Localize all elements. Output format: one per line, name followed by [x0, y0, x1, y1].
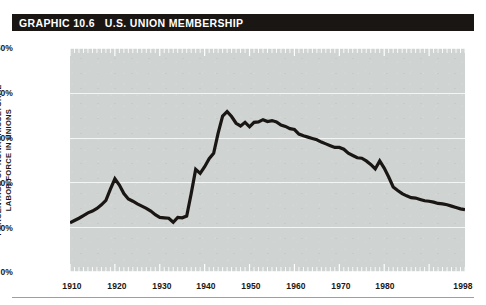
x-tick-label-1980: 1980 — [365, 281, 405, 291]
x-tick-label-1970: 1970 — [321, 281, 361, 291]
y-tick-label-20: 20% — [0, 178, 13, 188]
plot-area — [70, 48, 465, 272]
x-tick-label-1910: 1910 — [52, 281, 92, 291]
union-membership-line-chart — [70, 48, 465, 272]
x-tick-label-1920: 1920 — [97, 281, 137, 291]
x-tick-label-1950: 1950 — [231, 281, 271, 291]
series-line-union-membership — [70, 112, 465, 223]
x-tick-label-1930: 1930 — [142, 281, 182, 291]
x-tick-label-1940: 1940 — [186, 281, 226, 291]
y-tick-label-0: 0% — [0, 267, 13, 277]
y-tick-label-30: 30% — [0, 133, 13, 143]
x-tick-label-1998: 1998 — [443, 281, 483, 291]
graphic-title-text: GRAPHIC 10.6 U.S. UNION MEMBERSHIP — [12, 17, 243, 29]
graphic-figure: GRAPHIC 10.6 U.S. UNION MEMBERSHIP PERCE… — [0, 0, 486, 305]
footer-rule — [12, 297, 474, 298]
y-axis-label-line-2: LABOR FORCE IN UNIONS — [4, 48, 14, 272]
x-tick-label-1960: 1960 — [276, 281, 316, 291]
y-tick-label-10: 10% — [0, 223, 13, 233]
y-tick-label-40: 40% — [0, 88, 13, 98]
y-axis-label: PERCENTAGE OF NONAGRICULTURAL LABOR FORC… — [0, 0, 20, 48]
graphic-title-banner: GRAPHIC 10.6 U.S. UNION MEMBERSHIP — [12, 14, 474, 31]
y-tick-label-50: 50% — [0, 43, 13, 53]
